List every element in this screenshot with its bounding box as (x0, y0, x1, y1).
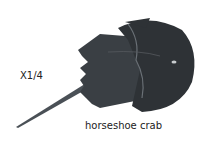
caption: horseshoe crab (85, 120, 162, 131)
scale-label: X1/4 (20, 70, 43, 81)
telson (16, 82, 92, 128)
eye (172, 60, 177, 63)
